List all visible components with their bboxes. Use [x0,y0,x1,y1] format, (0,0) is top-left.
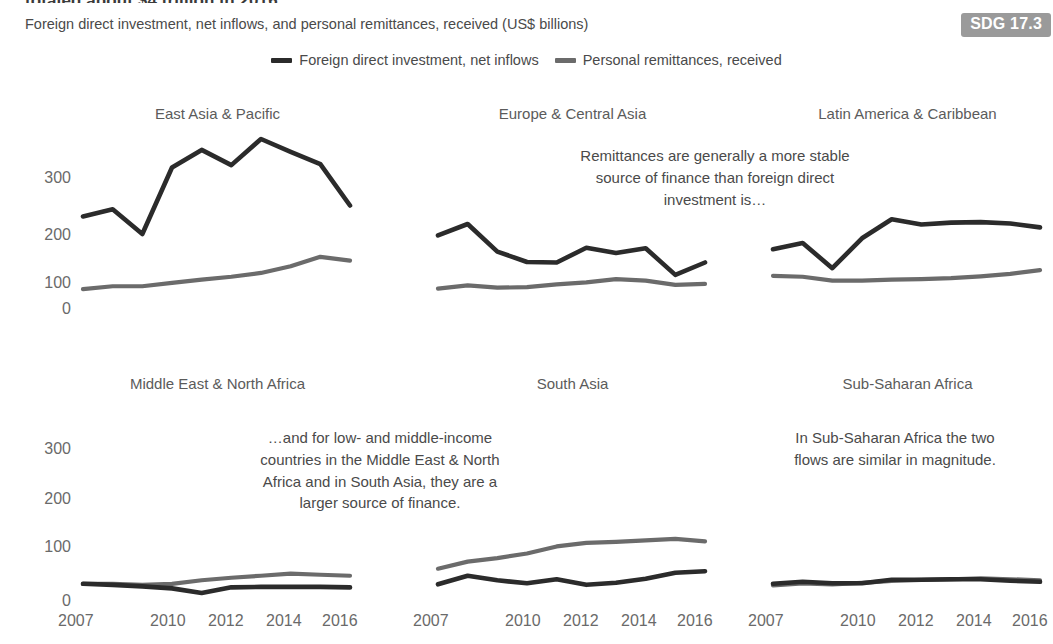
annotation-low-middle-income: …and for low- and middle-income countrie… [255,427,505,514]
y-tick-top-300: 300 [15,169,71,187]
infographic-canvas: totaled about $4 trillion in 2016 Foreig… [0,0,1053,644]
legend-label-fdi: Foreign direct investment, net inflows [299,52,538,68]
plot-sub-saharan-africa [765,380,1050,605]
plot-latin-america-caribbean [765,110,1050,315]
x-tick-2010-row2: 2010 [505,612,541,630]
x-tick-2007-row1: 2007 [58,612,94,630]
x-tick-2012-row2: 2012 [563,612,599,630]
x-tick-2007-row3: 2007 [748,612,784,630]
x-tick-2016-row2: 2016 [677,612,713,630]
x-tick-2014-row1: 2014 [266,612,302,630]
plot-europe-central-asia [430,110,715,315]
x-tick-2014-row3: 2014 [956,612,992,630]
chart-subtitle: Foreign direct investment, net inflows, … [25,16,588,32]
x-tick-2016-row3: 2016 [1012,612,1048,630]
panel-latin-america-caribbean: Latin America & Caribbean [765,105,1050,320]
panel-europe-central-asia: Europe & Central Asia [430,105,715,320]
x-tick-2010-row3: 2010 [840,612,876,630]
x-tick-2012-row1: 2012 [208,612,244,630]
y-tick-top-100: 100 [15,274,71,292]
legend-item-fdi: Foreign direct investment, net inflows [271,52,538,68]
y-tick-bottom-300: 300 [15,440,71,458]
panel-east-asia-pacific: East Asia & Pacific [75,105,360,320]
page-title: totaled about $4 trillion in 2016 [25,0,278,3]
annotation-remittances-stable: Remittances are generally a more stable … [560,145,870,210]
y-tick-top-0: 0 [15,300,71,318]
legend-swatch-fdi [271,58,292,63]
y-tick-bottom-100: 100 [15,538,71,556]
chart-legend: Foreign direct investment, net inflows P… [0,52,1053,68]
plot-east-asia-pacific [75,110,360,315]
y-tick-bottom-0: 0 [15,592,71,610]
x-tick-2012-row3: 2012 [898,612,934,630]
panel-sub-saharan-africa: Sub-Saharan Africa [765,375,1050,605]
legend-swatch-remittances [555,58,576,63]
x-tick-2016-row1: 2016 [322,612,358,630]
status-badge: SDG 17.3 [961,13,1051,37]
x-tick-2007-row2: 2007 [413,612,449,630]
x-tick-2014-row2: 2014 [621,612,657,630]
y-tick-bottom-200: 200 [15,490,71,508]
legend-label-remittances: Personal remittances, received [583,52,782,68]
annotation-sub-saharan: In Sub-Saharan Africa the two flows are … [790,427,1000,471]
legend-item-remittances: Personal remittances, received [555,52,782,68]
y-tick-top-200: 200 [15,226,71,244]
x-tick-2010-row1: 2010 [150,612,186,630]
